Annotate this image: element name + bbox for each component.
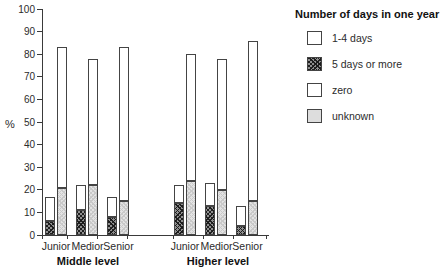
x-tick	[97, 235, 98, 239]
bar-middle-medior-zero	[88, 59, 98, 186]
bar-higher-junior-1-4-days	[174, 185, 184, 203]
bar-higher-senior-5-days-or-more	[236, 226, 246, 235]
legend-title: Number of days in one year	[295, 8, 445, 20]
x-category-label-middle-medior: Medior	[71, 240, 103, 252]
y-tick-label-30: 30	[9, 162, 35, 173]
bar-higher-senior-1-4-days	[236, 206, 246, 226]
x-tick	[67, 235, 68, 239]
legend-swatch-zero	[307, 83, 322, 97]
bar-higher-medior-1-4-days	[205, 183, 215, 206]
x-category-label-middle-junior: Junior	[42, 240, 71, 252]
bar-higher-medior-unknown	[217, 190, 227, 235]
bar-middle-senior-5-days-or-more	[107, 217, 117, 235]
x-tick	[127, 235, 128, 239]
legend-item-zero: zero	[295, 80, 445, 106]
bar-middle-junior-unknown	[57, 188, 67, 235]
x-tick	[203, 235, 204, 239]
y-axis-line	[42, 9, 43, 236]
bar-middle-senior-1-4-days	[107, 197, 117, 217]
bar-higher-junior-5-days-or-more	[174, 203, 184, 235]
y-tick-label-0: 0	[9, 230, 35, 241]
bar-middle-junior-5-days-or-more	[45, 221, 55, 235]
x-category-label-higher-medior: Medior	[200, 240, 232, 252]
y-tick-label-40: 40	[9, 139, 35, 150]
x-level-label-higher-level: Higher level	[187, 255, 249, 267]
bar-middle-senior-unknown	[119, 201, 129, 235]
y-tick-label-10: 10	[9, 207, 35, 218]
bar-higher-senior-zero	[248, 41, 258, 201]
legend-label-unknown: unknown	[332, 110, 374, 122]
bar-middle-junior-1-4-days	[45, 197, 55, 222]
y-tick-label-80: 80	[9, 49, 35, 60]
bar-higher-senior-unknown	[248, 201, 258, 235]
legend-swatch-5-days-or-more	[307, 57, 322, 71]
legend-swatch-1-4-days	[307, 31, 322, 45]
y-tick-label-50: 50	[9, 117, 35, 128]
bar-middle-senior-zero	[119, 47, 129, 201]
x-category-label-middle-senior: Senior	[103, 240, 133, 252]
x-level-label-middle-level: Middle level	[57, 255, 119, 267]
x-axis-line	[42, 235, 269, 236]
bar-higher-junior-zero	[186, 54, 196, 181]
y-tick-label-60: 60	[9, 94, 35, 105]
x-category-label-higher-senior: Senior	[232, 240, 262, 252]
legend-swatch-unknown	[307, 109, 322, 123]
legend: Number of days in one year 1-4 days5 day…	[295, 8, 445, 132]
legend-item-1-4-days: 1-4 days	[295, 28, 445, 54]
bar-middle-medior-5-days-or-more	[76, 210, 86, 235]
bar-higher-medior-zero	[217, 59, 227, 190]
legend-label-1-4-days: 1-4 days	[332, 32, 372, 44]
x-tick	[42, 235, 43, 239]
y-tick-label-70: 70	[9, 71, 35, 82]
legend-label-zero: zero	[332, 84, 352, 96]
x-category-label-higher-junior: Junior	[171, 240, 200, 252]
legend-item-list: 1-4 days5 days or morezerounknown	[295, 28, 445, 132]
legend-label-5-days-or-more: 5 days or more	[332, 58, 402, 70]
legend-item-5-days-or-more: 5 days or more	[295, 54, 445, 80]
y-tick-label-20: 20	[9, 184, 35, 195]
bar-middle-medior-unknown	[88, 185, 98, 235]
y-tick-label-90: 90	[9, 26, 35, 37]
bar-higher-junior-unknown	[186, 181, 196, 235]
x-tick	[266, 235, 267, 239]
bar-higher-medior-5-days-or-more	[205, 206, 215, 235]
legend-item-unknown: unknown	[295, 106, 445, 132]
bar-middle-junior-zero	[57, 47, 67, 187]
chart-canvas: % 0102030405060708090100 JuniorMediorSen…	[0, 0, 447, 272]
y-tick-label-100: 100	[9, 4, 35, 15]
x-tick	[173, 235, 174, 239]
x-tick	[233, 235, 234, 239]
bar-middle-medior-1-4-days	[76, 185, 86, 210]
